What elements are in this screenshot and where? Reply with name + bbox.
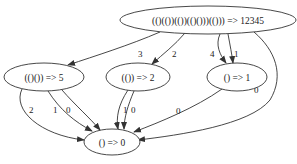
edge-label: 3 [138,49,143,59]
edge-label: 0 [176,106,181,116]
node-label: (()) => 2 [122,73,155,84]
graph-diagram: 3 2 4 1 0 2 1 0 1 0 0 (()(())(())(()()))… [0,0,297,164]
edge-root-n5 [68,32,160,65]
edge-label: 2 [172,49,177,59]
edge-label: 0 [66,105,71,115]
edge-root-n2 [152,33,185,64]
node-n5: (()()) => 5 [4,63,84,91]
edge-root-n1-b [228,34,233,63]
nodes: (()(())(())(()()))(())) => 12345 (()()) … [4,6,296,155]
edge-label: 1 [234,49,239,59]
edge-label: 4 [210,49,215,59]
node-label: (()(())(())(()()))(())) => 12345 [152,16,264,27]
node-n0: () => 0 [84,129,140,155]
node-label: () => 1 [224,73,251,84]
edge-label: 2 [29,105,34,115]
edge-label: 1 [123,105,128,115]
edge-label: 1 [53,105,58,115]
node-label: () => 0 [99,138,126,149]
node-n1: () => 1 [207,63,267,91]
node-root: (()(())(())(()()))(())) => 12345 [120,6,296,34]
edge-root-n1-a [218,34,226,63]
node-label: (()()) => 5 [24,73,63,84]
edge-label: 0 [131,105,136,115]
node-n2: (()) => 2 [106,63,170,91]
